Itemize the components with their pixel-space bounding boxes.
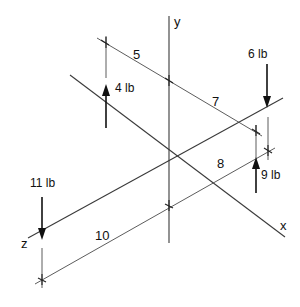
force-11lb: [38, 197, 46, 240]
force-9lb: [252, 157, 260, 193]
arrow-down-icon: [263, 96, 271, 108]
force-6lb: [263, 64, 271, 108]
force-label-11lb: 11 lb: [30, 176, 55, 190]
dimension-label-7: 7: [212, 94, 219, 109]
force-diagram: y x z 4 lb 6 lb 9 lb 11 lb 5 7 8 10: [0, 0, 300, 307]
arrow-up-icon: [102, 84, 110, 96]
force-label-9lb: 9 lb: [261, 168, 281, 182]
z-axis: [28, 98, 283, 238]
z-axis-label: z: [21, 236, 28, 251]
dimension-label-5: 5: [133, 47, 140, 62]
y-axis-label: y: [174, 14, 181, 29]
x-axis-label: x: [280, 218, 287, 233]
arrow-up-icon: [252, 157, 260, 169]
force-label-6lb: 6 lb: [248, 47, 268, 61]
arrow-down-icon: [38, 228, 46, 240]
dimension-label-8: 8: [217, 156, 224, 171]
tick-marks: [38, 37, 272, 285]
force-label-4lb: 4 lb: [115, 81, 135, 95]
dimension-label-10: 10: [95, 228, 109, 243]
force-4lb: [102, 84, 110, 128]
